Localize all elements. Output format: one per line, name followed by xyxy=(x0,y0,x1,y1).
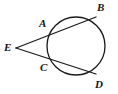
geometry-figure: E A B C D xyxy=(0,0,118,94)
point-label-d: D xyxy=(95,79,103,90)
point-label-c: C xyxy=(40,62,47,73)
point-label-e: E xyxy=(4,42,11,53)
point-label-b: B xyxy=(97,2,104,13)
secant-line-ecd xyxy=(16,48,96,74)
secant-line-eab xyxy=(16,17,96,48)
circle-shape xyxy=(47,17,105,75)
point-label-a: A xyxy=(39,18,46,29)
